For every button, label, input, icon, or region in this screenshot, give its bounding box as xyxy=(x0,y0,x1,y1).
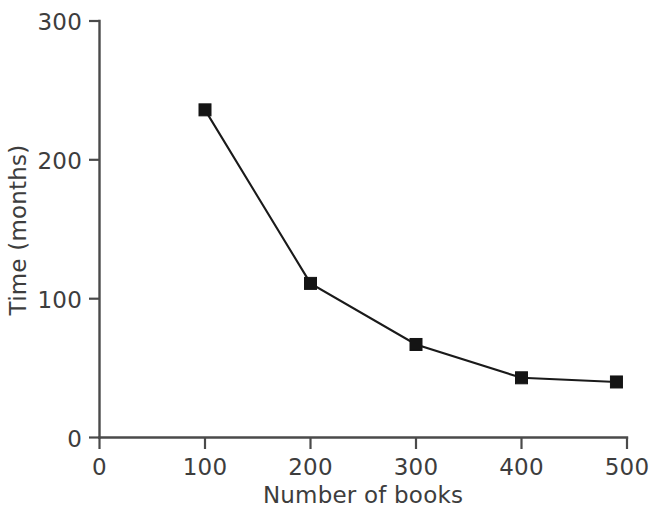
y-tick-label-200: 200 xyxy=(38,148,83,174)
y-axis-ticks xyxy=(89,21,100,438)
x-tick-label-300: 300 xyxy=(394,454,439,480)
y-axis-tick-labels: 300 200 100 0 xyxy=(38,9,83,452)
y-tick-label-0: 0 xyxy=(67,426,82,452)
x-axis-ticks xyxy=(100,438,628,450)
y-axis-title: Time (months) xyxy=(5,145,31,317)
x-tick-label-100: 100 xyxy=(183,454,228,480)
data-point-marker xyxy=(610,376,622,388)
x-tick-label-0: 0 xyxy=(92,454,107,480)
x-tick-label-200: 200 xyxy=(288,454,333,480)
series-markers-time xyxy=(199,104,622,388)
y-tick-label-300: 300 xyxy=(38,9,83,35)
x-tick-label-500: 500 xyxy=(605,454,650,480)
x-tick-label-400: 400 xyxy=(499,454,544,480)
x-axis-title: Number of books xyxy=(263,482,463,508)
data-point-marker xyxy=(410,338,422,350)
data-point-marker xyxy=(516,372,528,384)
line-chart-canvas: 300 200 100 0 0 100 200 300 400 500 Numb… xyxy=(0,0,661,509)
data-point-marker xyxy=(305,277,317,289)
x-axis-tick-labels: 0 100 200 300 400 500 xyxy=(92,454,649,480)
data-point-marker xyxy=(199,104,211,116)
y-tick-label-100: 100 xyxy=(38,287,83,313)
chart-figure: 300 200 100 0 0 100 200 300 400 500 Numb… xyxy=(0,0,661,509)
